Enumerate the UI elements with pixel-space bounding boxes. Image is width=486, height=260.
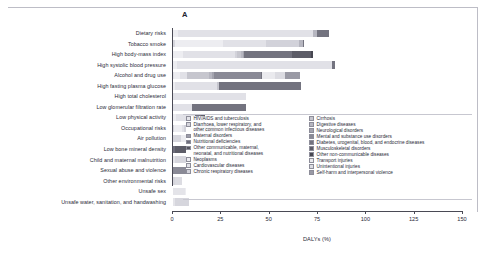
bar-segment: [175, 177, 183, 184]
y-axis-label: Dietary risks: [8, 28, 170, 39]
bar-segment: [173, 51, 183, 58]
x-axis-tick-label: 125: [409, 216, 418, 222]
stacked-bar: [173, 40, 463, 47]
y-axis-label: Unsafe sex: [8, 186, 170, 197]
y-axis-label: Child and maternal malnutrition: [8, 155, 170, 166]
x-axis-tick: [172, 211, 173, 214]
bar-segment: [178, 30, 313, 37]
legend: HIV/AIDS and tuberculosisDiarrhoea, lowe…: [186, 116, 454, 198]
legend-item[interactable]: Diabetes, urogenital, blood, and endocri…: [309, 140, 454, 145]
legend-item[interactable]: Nutritional deficiencies: [186, 139, 303, 144]
legend-label: Diabetes, urogenital, blood, and endocri…: [316, 140, 424, 145]
legend-item[interactable]: HIV/AIDS and tuberculosis: [186, 116, 303, 121]
legend-label: Cirrhosis: [316, 116, 335, 121]
legend-label: Other non-communicable diseases: [316, 152, 388, 157]
legend-swatch-icon: [186, 140, 191, 144]
legend-bottom-rule: [183, 199, 472, 200]
bar-row: [173, 49, 463, 60]
legend-item[interactable]: Cardiovascular diseases: [186, 163, 303, 168]
stacked-bar: [173, 61, 463, 68]
legend-swatch-icon: [309, 170, 314, 174]
legend-label: Musculoskeletal disorders: [316, 146, 370, 151]
legend-swatch-icon: [186, 163, 191, 167]
legend-label: Diarrhoea, lower respiratory, and other …: [193, 122, 264, 133]
legend-label: Cardiovascular diseases: [193, 163, 244, 168]
legend-item[interactable]: Neurological disorders: [309, 128, 454, 133]
y-axis-label: Other environmental risks: [8, 176, 170, 187]
right-rule: [477, 7, 478, 212]
stacked-bar: [173, 30, 463, 37]
legend-item[interactable]: Other communicable, maternal, neonatal, …: [186, 145, 303, 156]
y-axis-label: Low glomerular filtration rate: [8, 102, 170, 113]
bar-segment: [219, 82, 300, 89]
bar-segment: [275, 72, 285, 79]
bar-segment: [192, 104, 246, 111]
legend-label: Digestive diseases: [316, 122, 355, 127]
bar-segment: [173, 188, 185, 195]
x-axis-tick-label: 150: [457, 216, 466, 222]
x-axis-tick: [414, 211, 415, 214]
legend-swatch-icon: [309, 116, 314, 120]
legend-item[interactable]: Diarrhoea, lower respiratory, and other …: [186, 122, 303, 133]
y-axis-labels: Dietary risksTobacco smokeHigh body-mass…: [8, 28, 170, 186]
bar-segment: [175, 146, 186, 153]
y-axis-label: Unsafe water, sanitation, and handwashin…: [8, 197, 170, 208]
x-axis-tick: [462, 211, 463, 214]
legend-label: Self-harm and interpersonal violence: [316, 170, 392, 175]
legend-swatch-icon: [309, 128, 314, 132]
bar-segment: [173, 104, 192, 111]
legend-swatch-icon: [186, 146, 191, 150]
x-axis-tick: [365, 211, 366, 214]
legend-item[interactable]: Self-harm and interpersonal violence: [309, 170, 454, 175]
bar-segment: [292, 51, 311, 58]
bar-row: [173, 70, 463, 81]
legend-label: Maternal disorders: [193, 133, 232, 138]
legend-swatch-icon: [186, 116, 191, 120]
legend-item[interactable]: Unintentional injuries: [309, 164, 454, 169]
legend-swatch-icon: [309, 158, 314, 162]
legend-label: Other communicable, maternal, neonatal, …: [193, 145, 263, 156]
stacked-bar: [173, 51, 463, 58]
top-rule: [8, 7, 478, 8]
panel-letter: A: [182, 10, 188, 19]
bar-segment: [317, 30, 329, 37]
y-axis-label: Low physical activity: [8, 112, 170, 123]
y-axis-label: Alcohol and drug use: [8, 70, 170, 81]
stacked-bar: [173, 104, 463, 111]
legend-item[interactable]: Other non-communicable diseases: [309, 152, 454, 157]
y-axis-label: High total cholesterol: [8, 91, 170, 102]
legend-column-left: HIV/AIDS and tuberculosisDiarrhoea, lowe…: [186, 116, 303, 198]
bar-segment: [223, 40, 266, 47]
y-axis-label: Low bone mineral density: [8, 144, 170, 155]
bar-row: [173, 60, 463, 71]
stacked-bar: [173, 93, 463, 100]
legend-item[interactable]: Musculoskeletal disorders: [309, 146, 454, 151]
legend-item[interactable]: Mental and substance use disorders: [309, 134, 454, 139]
x-axis-tick-label: 0: [170, 216, 173, 222]
legend-swatch-icon: [309, 134, 314, 138]
x-axis-tick: [269, 211, 270, 214]
bar-segment: [311, 51, 313, 58]
bar-segment: [174, 125, 182, 132]
stacked-bar: [173, 82, 463, 89]
legend-item[interactable]: Maternal disorders: [186, 133, 303, 138]
legend-swatch-icon: [186, 134, 191, 138]
legend-item[interactable]: Digestive diseases: [309, 122, 454, 127]
x-axis-tick: [317, 211, 318, 214]
legend-item[interactable]: Cirrhosis: [309, 116, 454, 121]
legend-column-right: CirrhosisDigestive diseasesNeurological …: [309, 116, 454, 198]
bar-segment: [244, 51, 292, 58]
bar-segment: [173, 93, 246, 100]
bar-segment: [183, 51, 235, 58]
legend-item[interactable]: Neoplasms: [186, 157, 303, 162]
legend-label: Unintentional injuries: [316, 164, 360, 169]
legend-swatch-icon: [309, 164, 314, 168]
bar-segment: [214, 72, 260, 79]
legend-swatch-icon: [186, 169, 191, 173]
legend-item[interactable]: Transport injuries: [309, 158, 454, 163]
legend-item[interactable]: Chronic respiratory diseases: [186, 169, 303, 174]
bar-segment: [187, 72, 208, 79]
y-axis-label: High body-mass index: [8, 49, 170, 60]
legend-swatch-icon: [309, 152, 314, 156]
bar-segment: [285, 72, 300, 79]
